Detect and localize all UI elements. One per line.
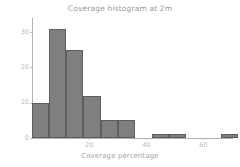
histogram-bar <box>49 29 66 138</box>
y-axis-tick-mark <box>30 67 32 68</box>
y-axis-tick-mark <box>30 103 32 104</box>
x-axis-tick-label: 20 <box>78 141 100 149</box>
histogram-bar <box>221 134 238 138</box>
y-axis-tick-labels: 0102030 <box>0 0 29 167</box>
histogram-bar <box>66 50 83 138</box>
histogram-bar <box>32 103 49 138</box>
y-axis-tick-label: 10 <box>7 99 29 106</box>
histogram-bar <box>118 120 135 138</box>
y-axis-tick-label: 30 <box>7 29 29 36</box>
x-axis-tick-label: 40 <box>135 141 157 149</box>
plot-area <box>32 18 232 138</box>
histogram-bar <box>101 120 118 138</box>
chart-title: Coverage histogram at 2m <box>0 4 240 13</box>
histogram-figure: Coverage histogram at 2m 0102030 Coverag… <box>0 0 240 167</box>
y-axis-tick-label: 20 <box>7 64 29 71</box>
x-axis-tick-mark <box>146 138 147 140</box>
x-axis-tick-label: 60 <box>192 141 214 149</box>
y-axis-tick-label: 0 <box>7 135 29 142</box>
y-axis-tick-mark <box>30 138 32 139</box>
x-axis-label: Coverage percentage <box>0 152 240 160</box>
x-axis-tick-mark <box>203 138 204 140</box>
histogram-bar <box>152 134 169 138</box>
histogram-bar <box>83 96 100 138</box>
y-axis-tick-mark <box>30 32 32 33</box>
x-axis-tick-mark <box>89 138 90 140</box>
histogram-bar <box>169 134 186 138</box>
